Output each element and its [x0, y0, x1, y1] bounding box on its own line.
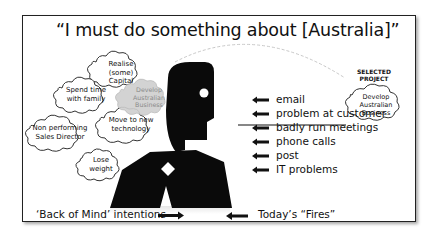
heading-line: PROJECT	[342, 75, 406, 82]
selected-project-cloud: Develop Australian Business	[348, 93, 404, 117]
cloud-move-to-new-technology: Move to new technology	[102, 116, 160, 133]
cloud-line: Non performing	[30, 124, 90, 133]
cloud-develop-australian-business-faded: Develop Australian Business	[124, 86, 174, 109]
cloud-lose-weight: Lose weight	[80, 156, 122, 173]
fire-item-it-problems: IT problems	[276, 163, 338, 175]
caption-todays-fires: Today’s “Fires”	[258, 208, 335, 220]
cloud-line: Spend time	[61, 86, 111, 95]
cloud-line: Australian	[124, 94, 174, 102]
arrow-left-icon	[252, 97, 269, 174]
cloud-line: Lose	[80, 156, 122, 165]
cloud-line: Australian	[348, 101, 404, 109]
cloud-line: Develop	[124, 86, 174, 94]
cloud-line: technology	[102, 125, 160, 134]
cloud-line: (some) Capital	[96, 69, 146, 86]
cloud-non-performing-sales-director: Non performing Sales Director	[30, 124, 90, 141]
caption-back-of-mind: ‘Back of Mind’ intentions	[36, 208, 166, 220]
cloud-line: weight	[80, 165, 122, 174]
selected-project-heading: SELECTED PROJECT	[342, 68, 406, 82]
cloud-line: Move to new	[102, 116, 160, 125]
fire-item-email: email	[276, 93, 305, 105]
cloud-line: Business	[348, 109, 404, 117]
cloud-realise-capital: Realise (some) Capital	[96, 60, 146, 86]
cloud-line: with family	[61, 95, 111, 104]
eye	[200, 89, 209, 98]
fire-item-badly-run-meetings: badly run meetings	[276, 121, 378, 133]
fire-item-post: post	[276, 149, 299, 161]
heading-line: SELECTED	[342, 68, 406, 75]
cloud-line: Develop	[348, 93, 404, 101]
cloud-line: Sales Director	[30, 133, 90, 142]
cloud-spend-time-family: Spend time with family	[61, 86, 111, 103]
cloud-line: Business	[124, 101, 174, 109]
fire-item-phone-calls: phone calls	[276, 135, 336, 147]
cloud-line: Realise	[96, 60, 146, 69]
